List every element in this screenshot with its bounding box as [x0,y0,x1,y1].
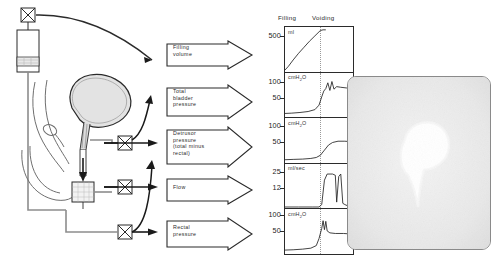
callout-filling-volume-label: Filling volume [173,44,227,57]
urodynamic-trace-chart: Filling Voiding 5001005010050251210050 m… [258,14,354,266]
callout-flow[interactable]: Flow [164,175,254,205]
callout-flow-label: Flow [173,184,227,191]
figure-root: Filling volume Total bladder pressure De… [0,0,498,274]
trace-line [285,174,353,207]
total-bladder-pressure-trace: cmH2O [285,73,353,119]
urodynamic-apparatus-diagram [0,0,160,274]
filling-volume-trace: ml [285,27,353,73]
callout-detrusor-pressure-label: Detrusor pressure (total minus rectal) [173,130,227,156]
fluid-reservoir-icon [17,30,39,72]
callout-total-bladder-pressure-label: Total bladder pressure [173,88,227,108]
trace-line [285,141,353,160]
phase-label-filling: Filling [278,14,296,21]
callout-rectal-pressure[interactable]: Rectal pressure [164,217,254,251]
callout-detrusor-pressure[interactable]: Detrusor pressure (total minus rectal) [164,126,254,168]
trace-line [285,30,326,70]
collection-beaker-icon [72,182,94,209]
phase-label-voiding: Voiding [312,14,334,21]
urethra-icon [80,122,90,176]
trace-line [285,221,353,250]
detrusor-pressure-trace: cmH2O [285,118,353,164]
trace-panel-stack: mlcmH2OcmH2Oml/seccmH2O [284,26,354,255]
rectal-pressure-trace: cmH2O [285,209,353,254]
voiding-cystourethrogram-image [347,76,491,250]
x-box-valve-icon [21,8,35,30]
flow-trace: ml/sec [285,164,353,210]
transducer-rectal [118,225,132,239]
callout-total-bladder-pressure[interactable]: Total bladder pressure [164,84,254,120]
callout-filling-volume[interactable]: Filling volume [164,40,254,70]
trace-line [285,81,353,113]
bladder-icon [70,74,131,127]
callout-rectal-pressure-label: Rectal pressure [173,224,227,237]
